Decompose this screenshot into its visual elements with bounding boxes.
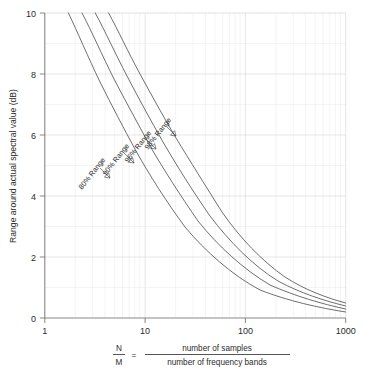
y-axis: 0 2 4 6 8 10 Range around actual spectra… bbox=[8, 9, 45, 324]
y-tick-4: 4 bbox=[31, 192, 36, 202]
chart-figure: 98% Range 96% Range 90% Range 80% Range bbox=[0, 0, 370, 390]
y-tick-0: 0 bbox=[31, 314, 36, 324]
x-tick-10: 10 bbox=[140, 326, 150, 336]
x-axis: 1 10 100 1000 bbox=[42, 318, 355, 336]
curve-98-range bbox=[109, 13, 346, 303]
y-tick-6: 6 bbox=[31, 131, 36, 141]
grid-horizontal bbox=[45, 13, 346, 288]
x-tick-1000: 1000 bbox=[336, 326, 356, 336]
chart-svg: 98% Range 96% Range 90% Range 80% Range bbox=[0, 0, 370, 390]
x-axis-formula: N M = number of samples number of freque… bbox=[113, 344, 290, 367]
formula-denominator-symbol: M bbox=[116, 358, 123, 367]
formula-numerator-symbol: N bbox=[116, 344, 122, 353]
curve-90-range bbox=[82, 13, 346, 309]
formula-denominator-text: number of frequency bands bbox=[167, 358, 267, 367]
y-tick-8: 8 bbox=[31, 70, 36, 80]
formula-equals: = bbox=[132, 351, 137, 360]
formula-numerator-text: number of samples bbox=[182, 344, 252, 353]
x-tick-100: 100 bbox=[238, 326, 253, 336]
y-tick-10: 10 bbox=[26, 9, 36, 19]
x-tick-1: 1 bbox=[42, 326, 47, 336]
y-tick-2: 2 bbox=[31, 253, 36, 263]
y-axis-title: Range around actual spectral value (dB) bbox=[8, 89, 18, 243]
